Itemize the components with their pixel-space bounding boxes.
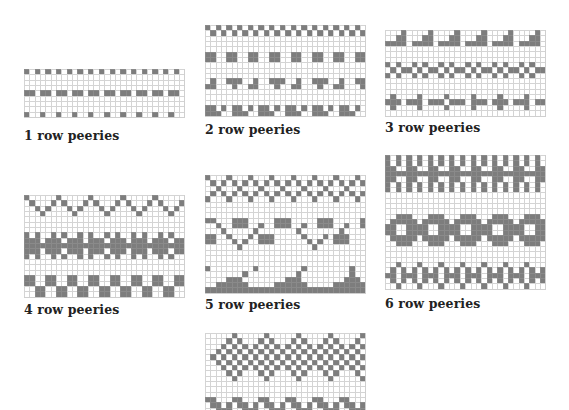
empty-stitch — [179, 291, 184, 296]
chart-caption: 4 row peeries — [24, 302, 119, 317]
chart-caption: 6 row peeries — [385, 296, 480, 311]
empty-stitch — [360, 111, 365, 116]
knitting-chart-grid — [385, 30, 546, 117]
chart-caption: 1 row peeries — [24, 128, 119, 143]
knitting-chart-grid — [385, 155, 546, 290]
chart-caption: 5 row peeries — [205, 297, 300, 312]
chart-caption: 2 row peeries — [205, 122, 300, 137]
chart-2 — [205, 25, 366, 117]
chart-5 — [205, 175, 366, 294]
empty-stitch — [179, 112, 184, 117]
knitting-chart-grid — [205, 175, 366, 294]
chart-1 — [24, 69, 185, 118]
chart-7 — [205, 333, 366, 410]
chart-caption: 3 row peeries — [385, 120, 480, 135]
filled-stitch — [360, 287, 365, 292]
knitting-chart-grid — [24, 69, 185, 118]
empty-stitch — [540, 110, 545, 115]
chart-3 — [385, 30, 546, 117]
knitting-chart-grid — [205, 333, 366, 410]
knitting-chart-grid — [24, 195, 185, 298]
empty-stitch — [540, 283, 545, 288]
knitting-chart-grid — [205, 25, 366, 117]
chart-4 — [24, 195, 185, 298]
chart-6 — [385, 155, 546, 290]
